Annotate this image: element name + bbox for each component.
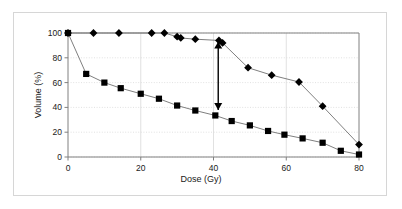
chart-annotations	[214, 42, 222, 110]
dose-volume-histogram-chart: 020406080020406080100 Dose (Gy) Volume (…	[0, 0, 402, 209]
y-axis-title: Volume (%)	[33, 72, 43, 119]
data-point-square	[247, 122, 253, 128]
chart-svg: 020406080020406080100 Dose (Gy) Volume (…	[0, 0, 402, 209]
x-axis-title: Dose (Gy)	[180, 174, 221, 184]
x-tick-label: 80	[354, 163, 364, 173]
data-point-square	[212, 112, 218, 118]
data-point-square	[300, 135, 306, 141]
annotation-arrow-head-bottom	[214, 103, 222, 110]
data-point-square	[83, 71, 89, 77]
data-point-square	[265, 128, 271, 134]
data-point-square	[156, 96, 162, 102]
data-point-diamond	[90, 29, 98, 37]
data-point-square	[138, 91, 144, 97]
data-point-square	[281, 132, 287, 138]
y-tick-label: 0	[57, 152, 62, 162]
data-point-diamond	[191, 35, 199, 43]
x-tick-label: 60	[282, 163, 292, 173]
data-point-square	[174, 102, 180, 108]
data-point-diamond	[268, 71, 276, 79]
data-point-diamond	[160, 29, 168, 37]
data-point-square	[192, 107, 198, 113]
data-point-square	[338, 148, 344, 154]
x-tick-label: 20	[136, 163, 146, 173]
y-tick-label: 80	[53, 53, 63, 63]
data-point-square	[65, 30, 71, 36]
data-point-square	[118, 85, 124, 91]
data-point-square	[229, 118, 235, 124]
data-point-square	[101, 80, 107, 86]
y-tick-label: 60	[53, 78, 63, 88]
x-tick-label: 40	[209, 163, 219, 173]
y-tick-label: 20	[53, 127, 63, 137]
y-tick-label: 40	[53, 102, 63, 112]
data-point-diamond	[115, 29, 123, 37]
data-point-square	[356, 151, 362, 157]
data-point-square	[320, 140, 326, 146]
y-tick-label: 100	[48, 28, 62, 38]
data-point-diamond	[148, 29, 156, 37]
x-tick-label: 0	[66, 163, 71, 173]
gridlines	[68, 33, 359, 157]
